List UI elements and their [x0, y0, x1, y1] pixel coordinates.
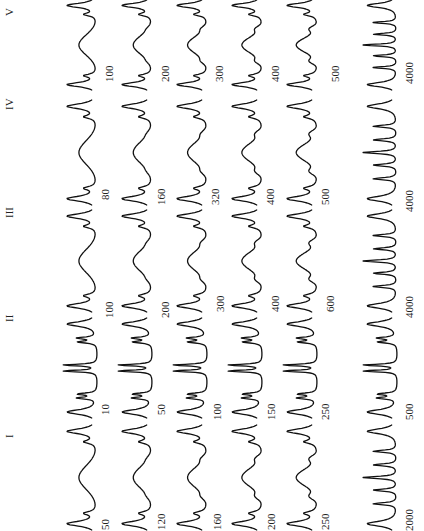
spectrum-trace-V-5: [363, 0, 396, 90]
label-IV-0: 80: [100, 189, 111, 200]
spectrum-trace-III-2: [177, 210, 206, 312]
label-III-2: 300: [215, 296, 226, 313]
label-V-4: 500: [330, 66, 341, 83]
label-I-0: 50: [100, 519, 111, 530]
spectrum-trace-V-0: [67, 0, 95, 90]
spectrum-trace-IV-0: [67, 100, 95, 205]
label-II-2: 100: [212, 404, 223, 421]
spectrum-trace-V-2: [177, 0, 206, 90]
label-V-2: 300: [214, 66, 225, 83]
label-III-0: 100: [104, 302, 115, 319]
spectra-traces: [0, 0, 424, 531]
spectrum-trace-IV-1: [122, 100, 150, 205]
label-V-3: 400: [270, 66, 281, 83]
spectrum-trace-II-4: [283, 318, 317, 418]
label-I-2: 160: [212, 514, 223, 531]
label-II-0: 10: [100, 404, 111, 415]
panel-label-II: II: [4, 315, 15, 322]
spectrum-trace-IV-5: [363, 100, 396, 205]
label-I-4: 250: [320, 514, 331, 531]
spectrum-trace-I-0: [67, 425, 95, 530]
panel-label-I: I: [4, 434, 15, 438]
spectrum-trace-II-5: [363, 318, 397, 418]
label-II-1: 50: [156, 404, 167, 415]
spectrum-trace-IV-2: [177, 100, 206, 205]
spectrum-trace-I-4: [287, 425, 316, 530]
spectrum-trace-I-2: [177, 425, 206, 530]
spectrum-trace-II-0: [63, 318, 97, 418]
spectrum-trace-I-1: [122, 425, 150, 530]
label-I-5: 2000: [404, 509, 415, 531]
label-IV-3: 400: [265, 189, 276, 206]
spectrum-trace-I-5: [363, 425, 396, 530]
spectrum-trace-IV-4: [287, 100, 316, 205]
label-III-1: 200: [160, 302, 171, 319]
spectrum-trace-II-3: [228, 318, 262, 418]
label-III-5: 4000: [404, 296, 415, 318]
spectrum-trace-I-3: [232, 425, 261, 530]
label-III-4: 600: [325, 296, 336, 313]
spectrum-trace-III-0: [67, 210, 95, 312]
label-V-1: 200: [160, 66, 171, 83]
label-V-0: 100: [104, 66, 115, 83]
label-II-3: 150: [266, 404, 277, 421]
panel-label-IV: IV: [4, 98, 15, 110]
label-IV-2: 320: [210, 189, 221, 206]
spectrum-trace-III-3: [232, 210, 261, 312]
spectrum-trace-II-1: [118, 318, 152, 418]
spectra-figure: I II III IV V 50 120 160 200 250 2000 10…: [0, 0, 424, 531]
spectrum-trace-III-4: [287, 210, 316, 312]
spectrum-trace-V-3: [232, 0, 261, 90]
label-I-3: 200: [266, 514, 277, 531]
label-IV-1: 160: [156, 189, 167, 206]
panel-label-III: III: [4, 207, 15, 218]
label-III-3: 400: [270, 296, 281, 313]
panel-label-V: V: [4, 8, 15, 16]
spectrum-trace-III-5: [363, 210, 396, 312]
label-I-1: 120: [156, 514, 167, 531]
spectrum-trace-IV-3: [232, 100, 261, 205]
spectrum-trace-II-2: [173, 318, 207, 418]
spectrum-trace-V-1: [122, 0, 150, 90]
spectrum-trace-III-1: [122, 210, 150, 312]
spectrum-trace-V-4: [287, 0, 316, 90]
label-IV-4: 500: [320, 189, 331, 206]
label-V-5: 4000: [404, 62, 415, 84]
label-II-5: 500: [404, 404, 415, 421]
label-IV-5: 4000: [404, 190, 415, 212]
label-II-4: 250: [320, 404, 331, 421]
